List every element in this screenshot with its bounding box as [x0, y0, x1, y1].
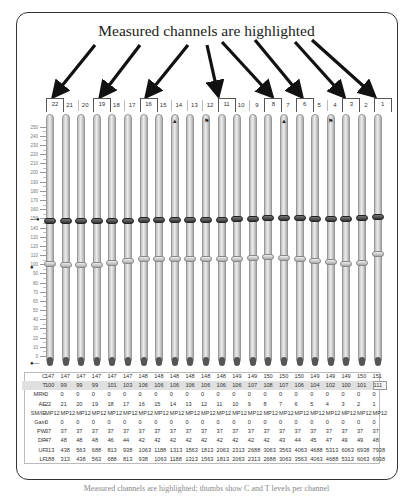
slider-track[interactable] — [155, 114, 163, 364]
t-level-thumb[interactable] — [294, 256, 306, 262]
channel-tab-12[interactable]: 12 — [202, 100, 219, 111]
table-cell[interactable]: 151 — [373, 372, 389, 381]
channel-slider-21[interactable] — [62, 114, 70, 370]
table-cell[interactable]: 148 — [217, 372, 233, 381]
slider-track[interactable] — [264, 114, 272, 364]
table-cell[interactable]: 99 — [61, 381, 77, 390]
table-cell[interactable]: 147 — [92, 372, 108, 381]
slider-track[interactable] — [171, 114, 179, 364]
slider-track[interactable] — [342, 114, 350, 364]
channel-tab-5[interactable]: 5 — [311, 100, 328, 111]
channel-tab-14[interactable]: 14 — [171, 100, 188, 111]
t-level-thumb[interactable] — [184, 256, 196, 262]
channel-tab-18[interactable]: 18 — [108, 100, 125, 111]
t-level-thumb[interactable] — [106, 260, 118, 266]
c-level-thumb[interactable] — [216, 217, 228, 223]
c-level-thumb[interactable] — [153, 217, 165, 223]
c-level-thumb[interactable] — [309, 216, 321, 222]
slider-track[interactable] — [358, 114, 366, 364]
table-cell[interactable]: 103 — [123, 381, 139, 390]
t-level-thumb[interactable] — [200, 256, 212, 262]
table-cell[interactable]: 99 — [92, 381, 108, 390]
table-cell[interactable]: 99 — [76, 381, 92, 390]
t-level-thumb[interactable] — [247, 255, 259, 261]
t-level-thumb[interactable] — [122, 258, 134, 264]
slider-track[interactable] — [327, 114, 335, 364]
c-level-thumb[interactable] — [325, 216, 337, 222]
table-cell[interactable]: 102 — [326, 381, 342, 390]
c-level-thumb[interactable] — [44, 218, 56, 224]
channel-tab-15[interactable]: 15 — [155, 100, 172, 111]
slider-track[interactable] — [124, 114, 132, 364]
c-level-thumb[interactable] — [169, 217, 181, 223]
c-level-thumb[interactable] — [231, 216, 243, 222]
slider-track[interactable] — [280, 114, 288, 364]
table-cell[interactable]: 148 — [185, 372, 201, 381]
channel-tab-2[interactable]: 2 — [358, 100, 375, 111]
channel-slider-5[interactable] — [311, 114, 319, 370]
c-level-thumb[interactable] — [200, 217, 212, 223]
table-cell[interactable]: 100 — [341, 381, 357, 390]
channel-slider-17[interactable] — [124, 114, 132, 370]
table-cell[interactable]: 147 — [107, 372, 123, 381]
channel-tab-17[interactable]: 17 — [124, 100, 141, 111]
channel-tab-10[interactable]: 10 — [233, 100, 250, 111]
channel-slider-14[interactable]: ▲ — [171, 114, 179, 370]
table-cell[interactable]: 106 — [154, 381, 170, 390]
slider-track[interactable] — [202, 114, 210, 364]
table-cell[interactable]: 106 — [170, 381, 186, 390]
c-level-thumb[interactable] — [122, 218, 134, 224]
channel-tab-21[interactable]: 21 — [62, 100, 79, 111]
channel-slider-16[interactable] — [140, 114, 148, 370]
table-cell[interactable]: 106 — [201, 381, 217, 390]
channel-tab-20[interactable]: 20 — [77, 100, 94, 111]
channel-slider-13[interactable] — [186, 114, 194, 370]
c-level-thumb[interactable] — [75, 218, 87, 224]
table-cell[interactable]: 106 — [185, 381, 201, 390]
channel-tab-9[interactable]: 9 — [249, 100, 266, 111]
table-cell[interactable]: 147 — [76, 372, 92, 381]
channel-tab-4[interactable]: 4 — [327, 100, 344, 111]
t-level-thumb[interactable] — [372, 251, 384, 257]
table-cell[interactable]: 148 — [170, 372, 186, 381]
t-level-thumb[interactable] — [356, 260, 368, 266]
table-cell[interactable]: 101 — [107, 381, 123, 390]
t-level-thumb[interactable] — [91, 262, 103, 268]
table-cell[interactable]: 106 — [295, 381, 311, 390]
channel-tab-7[interactable]: 7 — [280, 100, 297, 111]
table-cell[interactable]: 149 — [310, 372, 326, 381]
table-cell[interactable]: 106 — [217, 381, 233, 390]
slider-track[interactable] — [62, 114, 70, 364]
channel-slider-11[interactable] — [218, 114, 226, 370]
table-cell[interactable]: 149 — [326, 372, 342, 381]
slider-track[interactable] — [140, 114, 148, 364]
c-level-thumb[interactable] — [278, 215, 290, 221]
c-level-thumb[interactable] — [262, 215, 274, 221]
t-level-thumb[interactable] — [309, 258, 321, 264]
slider-track[interactable] — [374, 114, 382, 364]
c-level-thumb[interactable] — [294, 215, 306, 221]
t-level-thumb[interactable] — [153, 256, 165, 262]
t-level-thumb[interactable] — [231, 256, 243, 262]
channel-slider-12[interactable]: ⚑ — [202, 114, 210, 370]
channel-slider-6[interactable] — [296, 114, 304, 370]
slider-track[interactable] — [233, 114, 241, 364]
channel-slider-1[interactable] — [374, 114, 382, 370]
table-cell[interactable]: 149 — [232, 372, 248, 381]
table-cell[interactable]: 147 — [45, 372, 61, 381]
channel-slider-8[interactable] — [264, 114, 272, 370]
t-level-thumb[interactable] — [262, 254, 274, 260]
c-level-thumb[interactable] — [340, 216, 352, 222]
t-level-thumb[interactable] — [340, 261, 352, 267]
t-level-thumb[interactable] — [44, 261, 56, 267]
table-cell[interactable]: 150 — [295, 372, 311, 381]
c-level-thumb[interactable] — [91, 218, 103, 224]
c-level-thumb[interactable] — [60, 218, 72, 224]
table-cell[interactable]: 108 — [263, 381, 279, 390]
table-cell[interactable]: 148 — [201, 372, 217, 381]
c-level-thumb[interactable] — [138, 217, 150, 223]
c-level-thumb[interactable] — [356, 215, 368, 221]
channel-tab-1[interactable]: 1 — [374, 98, 392, 112]
table-cell[interactable]: 148 — [139, 372, 155, 381]
t-level-thumb[interactable] — [216, 256, 228, 262]
